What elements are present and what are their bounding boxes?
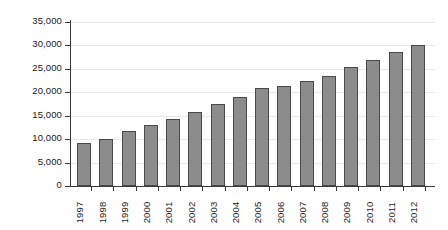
x-axis-label-text: 2009	[342, 202, 353, 224]
bar-slot	[73, 22, 95, 186]
x-axis-label-text: 2003	[208, 202, 219, 224]
x-axis-label-text: 1997	[75, 202, 86, 224]
x-axis-tick	[358, 186, 359, 191]
y-axis-label: 35,000	[0, 15, 62, 26]
x-axis-tick	[91, 186, 92, 191]
bar-slot	[229, 22, 251, 186]
bar-slot	[296, 22, 318, 186]
x-axis-label-text: 2008	[319, 202, 330, 224]
bar	[300, 81, 314, 186]
bar	[411, 45, 425, 186]
x-axis-label: 2005	[247, 193, 269, 218]
x-axis-tick	[136, 186, 137, 191]
bar	[322, 76, 336, 186]
x-axis-tick	[336, 186, 337, 191]
bar	[77, 143, 91, 186]
x-axis-label: 1997	[69, 193, 91, 218]
x-axis-tick	[180, 186, 181, 191]
bar	[277, 86, 291, 186]
x-axis-label-text: 1999	[119, 202, 130, 224]
bar	[255, 88, 269, 186]
bar-slot	[273, 22, 295, 186]
x-axis-label-text: 2002	[186, 202, 197, 224]
bar-series	[70, 22, 435, 186]
bar	[389, 52, 403, 186]
x-axis-label: 2012	[403, 193, 425, 218]
x-axis-label-text: 1998	[97, 202, 108, 224]
x-axis-label-text: 2011	[386, 202, 397, 223]
bar-slot	[251, 22, 273, 186]
y-axis-label: 25,000	[0, 62, 62, 73]
bar	[211, 104, 225, 186]
x-axis-tick	[314, 186, 315, 191]
bar-slot	[95, 22, 117, 186]
x-axis-tick	[403, 186, 404, 191]
y-axis-label: 10,000	[0, 132, 62, 143]
bar-slot	[385, 22, 407, 186]
x-axis-label: 2006	[269, 193, 291, 218]
x-axis-tick	[113, 186, 114, 191]
x-axis-tick	[269, 186, 270, 191]
x-axis-label: 2004	[225, 193, 247, 218]
x-axis-label-text: 2005	[253, 202, 264, 224]
x-axis-label-text: 2010	[364, 202, 375, 224]
bar-slot	[207, 22, 229, 186]
y-axis-label: 20,000	[0, 85, 62, 96]
x-axis-label: 2009	[336, 193, 358, 218]
bar	[366, 60, 380, 186]
bar	[166, 119, 180, 186]
bar	[188, 112, 202, 187]
x-axis-label-text: 2007	[297, 202, 308, 224]
x-axis-label: 2002	[180, 193, 202, 218]
x-axis-tick	[247, 186, 248, 191]
bar-slot	[118, 22, 140, 186]
bar-slot	[184, 22, 206, 186]
bar-slot	[340, 22, 362, 186]
bar	[144, 125, 158, 186]
x-axis-tick	[425, 186, 426, 191]
x-axis-label-text: 2001	[164, 202, 175, 224]
x-axis-label-text: 2006	[275, 202, 286, 224]
bar-slot	[140, 22, 162, 186]
y-axis-label: 5,000	[0, 156, 62, 167]
x-axis-label: 2001	[158, 193, 180, 218]
bar-slot	[362, 22, 384, 186]
y-axis-label: 30,000	[0, 38, 62, 49]
bar-slot	[407, 22, 429, 186]
bar-slot	[162, 22, 184, 186]
x-axis-label: 2003	[203, 193, 225, 218]
bar	[233, 97, 247, 186]
bar-slot	[318, 22, 340, 186]
x-axis-label-text: 2000	[141, 202, 152, 224]
x-axis-label: 2008	[314, 193, 336, 218]
y-axis-label: 0	[0, 179, 62, 190]
x-axis-tick	[291, 186, 292, 191]
bar	[344, 67, 358, 186]
x-axis-tick	[380, 186, 381, 191]
x-axis-label: 1999	[114, 193, 136, 218]
bar	[122, 131, 136, 186]
x-axis-tick	[225, 186, 226, 191]
x-axis-label-text: 2012	[408, 202, 419, 224]
x-axis-label: 2007	[292, 193, 314, 218]
x-axis-label: 2000	[136, 193, 158, 218]
x-axis-label: 2011	[381, 193, 403, 218]
x-axis-tick	[158, 186, 159, 191]
x-axis-label: 2010	[358, 193, 380, 218]
bar	[99, 139, 113, 186]
x-axis-tick	[202, 186, 203, 191]
y-axis-label: 15,000	[0, 109, 62, 120]
x-axis-label: 1998	[91, 193, 113, 218]
x-axis-label-text: 2004	[230, 202, 241, 224]
bar-chart: 35,00030,00025,00020,00015,00010,0005,00…	[0, 0, 448, 230]
